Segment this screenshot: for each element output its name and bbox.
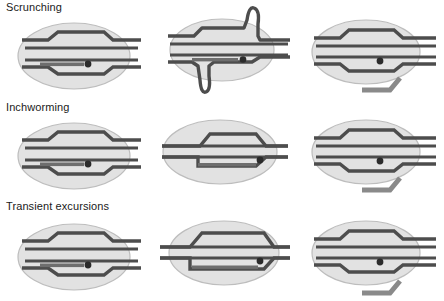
active-site-dot <box>377 58 384 65</box>
panel-scrunching-middle <box>148 0 296 100</box>
panel-graphic <box>148 100 296 200</box>
active-site-dot <box>257 258 264 265</box>
panel-graphic <box>296 0 444 100</box>
panel-graphic <box>296 199 444 299</box>
rna-polymerase-ellipse <box>169 221 279 285</box>
panel-transient-middle <box>148 199 296 299</box>
nascent-rna-bar <box>40 264 84 268</box>
active-site-dot <box>377 259 384 266</box>
nascent-rna-bar <box>40 63 84 67</box>
panel-transient-end <box>296 199 444 299</box>
active-site-dot <box>257 157 264 164</box>
rna-polymerase-ellipse <box>163 120 277 184</box>
panel-scrunching-end <box>296 0 444 100</box>
panel-graphic <box>0 0 148 100</box>
panel-graphic <box>0 199 148 299</box>
panel-graphic <box>0 100 148 200</box>
nascent-rna-bar <box>192 266 258 269</box>
active-site-dot <box>85 61 92 68</box>
nascent-rna-bar <box>198 163 256 166</box>
diagram-row-transient-excursions: Transient excursions <box>0 199 444 299</box>
nascent-rna-bar <box>192 58 238 61</box>
panel-inchworming-start <box>0 100 148 200</box>
active-site-dot <box>85 161 92 168</box>
diagram-row-inchworming: Inchworming <box>0 100 444 200</box>
panel-transient-start <box>0 199 148 299</box>
nascent-rna-bar <box>40 163 84 167</box>
panel-inchworming-end <box>296 100 444 200</box>
active-site-dot <box>85 262 92 269</box>
panel-inchworming-middle <box>148 100 296 200</box>
panel-graphic <box>296 100 444 200</box>
diagram-row-scrunching: Scrunching <box>0 0 444 100</box>
panel-scrunching-start <box>0 0 148 100</box>
active-site-dot <box>240 56 247 63</box>
panel-graphic <box>148 199 296 299</box>
panel-graphic <box>148 0 296 100</box>
active-site-dot <box>377 158 384 165</box>
